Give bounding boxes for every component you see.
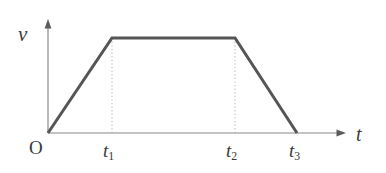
y-axis-arrowhead	[45, 19, 52, 29]
tick-subscript-t2: 2	[231, 150, 237, 163]
tick-subscript-t1: 1	[108, 150, 114, 163]
x-axis-label: t	[356, 124, 362, 144]
tick-subscript-t3: 3	[294, 150, 300, 163]
y-axis-label: v	[18, 24, 27, 45]
velocity-time-graph-figure: v t O t1 t2 t3	[0, 0, 386, 173]
x-tick-label-t2: t2	[226, 141, 237, 160]
x-tick-label-t3: t3	[289, 141, 300, 160]
x-axis-arrowhead	[337, 130, 347, 137]
velocity-curve	[48, 38, 297, 133]
x-tick-label-t1: t1	[103, 141, 114, 160]
origin-label: O	[29, 138, 43, 157]
plot-canvas	[0, 0, 386, 173]
